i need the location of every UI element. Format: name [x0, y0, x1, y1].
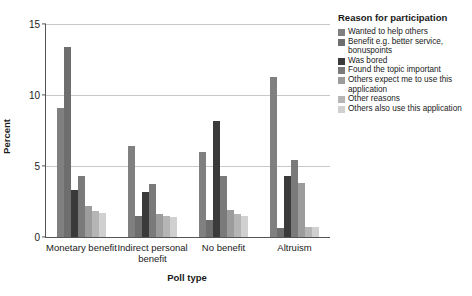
- y-axis-tick-label: 0: [34, 232, 40, 243]
- legend: Reason for participation Wanted to help …: [338, 12, 472, 113]
- legend-item-label: Others expect me to use this application: [348, 75, 472, 94]
- x-axis-title: Poll type: [167, 272, 207, 283]
- bar-group: Indirect personal benefit: [117, 24, 188, 237]
- y-axis-title: Percent: [1, 119, 12, 154]
- legend-item[interactable]: Benefit e.g. better service, bonuspoints: [338, 37, 472, 56]
- bar: [78, 176, 85, 237]
- legend-title: Reason for participation: [338, 12, 472, 23]
- legend-item-label: Found the topic important: [348, 65, 441, 75]
- bar-group: Altruism: [259, 24, 330, 237]
- legend-color-swatch: [338, 58, 345, 65]
- legend-item[interactable]: Others also use this application: [338, 104, 472, 114]
- legend-color-swatch: [338, 77, 345, 84]
- x-axis-tick-label: Altruism: [250, 242, 340, 253]
- bar: [298, 183, 305, 237]
- legend-item-label: Others also use this application: [348, 104, 462, 114]
- bar: [312, 227, 319, 237]
- bar: [284, 176, 291, 237]
- legend-item[interactable]: Wanted to help others: [338, 27, 472, 37]
- legend-item[interactable]: Other reasons: [338, 94, 472, 104]
- legend-color-swatch: [338, 67, 345, 74]
- bar: [92, 211, 99, 237]
- bar: [156, 214, 163, 237]
- legend-color-swatch: [338, 29, 345, 36]
- legend-item-label: Wanted to help others: [348, 27, 428, 37]
- bar: [227, 210, 234, 237]
- bar-chart: Percent 051015Monetary benefitIndirect p…: [0, 0, 472, 296]
- bar: [234, 214, 241, 237]
- y-axis-tick-label: 10: [29, 90, 40, 101]
- bar: [85, 206, 92, 237]
- y-axis-tick-label: 5: [34, 161, 40, 172]
- legend-item-list: Wanted to help othersBenefit e.g. better…: [338, 27, 472, 113]
- bar: [199, 152, 206, 237]
- bar: [71, 190, 78, 237]
- bar: [291, 160, 298, 237]
- bar: [142, 192, 149, 237]
- legend-item-label: Benefit e.g. better service, bonuspoints: [348, 37, 472, 56]
- bar: [277, 228, 284, 237]
- bar: [149, 184, 156, 237]
- bar: [64, 47, 71, 237]
- legend-color-swatch: [338, 39, 345, 46]
- y-axis-tick-label: 15: [29, 19, 40, 30]
- legend-item-label: Was bored: [348, 56, 387, 66]
- bar: [241, 216, 248, 237]
- bar: [206, 220, 213, 237]
- bar: [170, 217, 177, 237]
- plot-area: 051015Monetary benefitIndirect personal …: [45, 24, 330, 238]
- bar: [99, 213, 106, 237]
- bar: [270, 77, 277, 237]
- bar: [57, 108, 64, 237]
- bar-group: No benefit: [188, 24, 259, 237]
- legend-item[interactable]: Was bored: [338, 56, 472, 66]
- bar: [305, 227, 312, 237]
- bar: [163, 216, 170, 237]
- bar: [135, 216, 142, 237]
- bar-group: Monetary benefit: [46, 24, 117, 237]
- legend-item-label: Other reasons: [348, 94, 400, 104]
- legend-color-swatch: [338, 96, 345, 103]
- bar: [220, 176, 227, 237]
- legend-item[interactable]: Others expect me to use this application: [338, 75, 472, 94]
- legend-color-swatch: [338, 106, 345, 113]
- bar: [128, 146, 135, 237]
- bar: [213, 121, 220, 237]
- legend-item[interactable]: Found the topic important: [338, 65, 472, 75]
